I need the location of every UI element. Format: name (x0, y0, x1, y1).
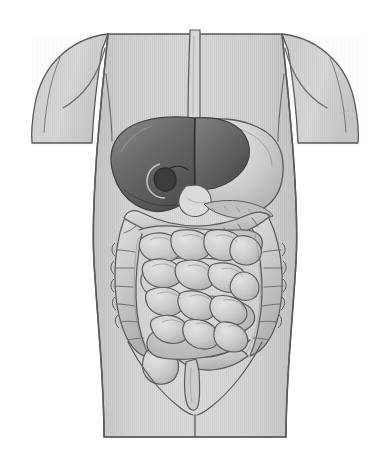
rectum (185, 359, 200, 410)
illustration-canvas: Human abdominal digestive system anatomy (0, 0, 390, 467)
digestive-system-figure (0, 0, 390, 467)
gallbladder (154, 168, 176, 191)
small-intestine (139, 226, 262, 359)
duodenum (179, 185, 211, 217)
